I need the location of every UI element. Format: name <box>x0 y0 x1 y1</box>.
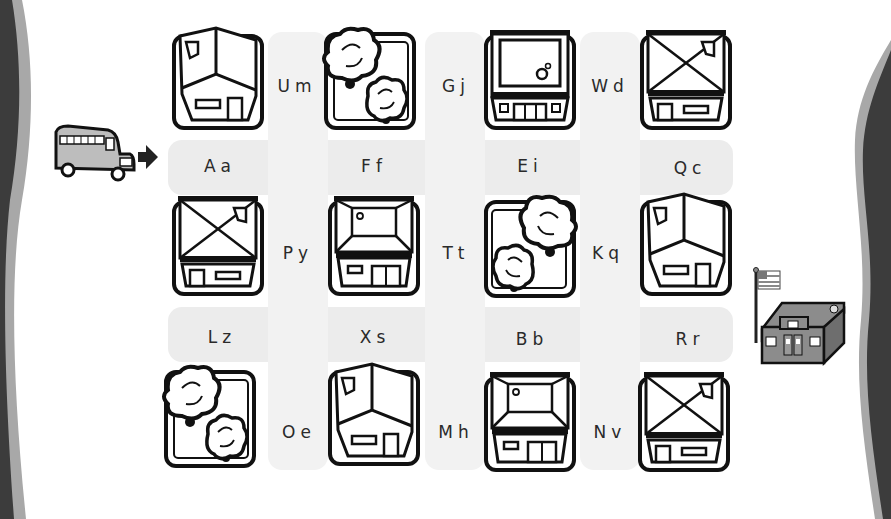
school-bus-icon <box>50 122 160 184</box>
tile-r1c3-house <box>480 26 580 134</box>
maze-letter-pair[interactable]: Kq <box>592 243 624 263</box>
maze-letter-pair[interactable]: Aa <box>204 156 236 176</box>
goal-school <box>752 265 846 371</box>
house-icon <box>324 362 424 470</box>
house-icon <box>480 368 580 476</box>
left-wave-border <box>0 0 40 519</box>
tile-r1c4-house <box>636 26 736 134</box>
tile-r3c1-trees <box>160 364 260 472</box>
tile-r2c4-house <box>636 192 736 300</box>
school-building-icon <box>752 265 846 371</box>
house-icon <box>168 26 268 134</box>
trees-icon <box>320 26 420 134</box>
maze-letter-pair[interactable]: Lz <box>208 327 236 347</box>
maze-letter-pair[interactable]: Tt <box>442 243 469 263</box>
trees-icon <box>160 364 260 472</box>
house-icon <box>634 368 734 476</box>
maze-letter-pair[interactable]: Gj <box>442 76 470 96</box>
house-icon <box>636 26 736 134</box>
right-wave-border <box>851 0 891 519</box>
tile-r1c1-house <box>168 26 268 134</box>
maze-letter-pair[interactable]: Mh <box>438 422 473 442</box>
tile-r1c2-trees <box>320 26 420 134</box>
tile-r3c2-house <box>324 362 424 470</box>
maze-letter-pair[interactable]: Qc <box>674 158 707 178</box>
start-bus <box>50 122 160 184</box>
tile-r2c3-trees <box>480 194 580 302</box>
house-icon <box>636 192 736 300</box>
maze-letter-pair[interactable]: Ei <box>517 156 542 176</box>
maze-letter-pair[interactable]: Um <box>277 76 316 96</box>
maze-letter-pair[interactable]: Ff <box>361 156 387 176</box>
trees-icon <box>480 194 580 302</box>
maze-letter-pair[interactable]: Py <box>283 243 313 263</box>
tile-r3c3-house <box>480 368 580 476</box>
tile-r2c1-house <box>168 192 268 300</box>
house-icon <box>324 192 424 300</box>
house-icon <box>168 192 268 300</box>
maze-letter-pair[interactable]: Nv <box>594 422 627 442</box>
maze-letter-pair[interactable]: Wd <box>591 76 629 96</box>
house-icon <box>480 26 580 134</box>
maze-letter-pair[interactable]: Xs <box>360 327 391 347</box>
maze-letter-pair[interactable]: Oe <box>282 422 316 442</box>
maze-letter-pair[interactable]: Bb <box>516 329 548 349</box>
tile-r2c2-house <box>324 192 424 300</box>
maze-letter-pair[interactable]: Rr <box>676 329 705 349</box>
tile-r3c4-house <box>634 368 734 476</box>
